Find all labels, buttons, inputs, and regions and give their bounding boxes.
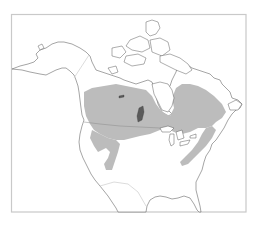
- range-map: [0, 0, 255, 227]
